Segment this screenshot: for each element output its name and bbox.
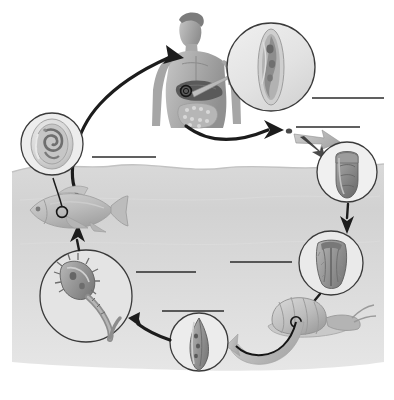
operculated-egg-icon xyxy=(336,152,358,199)
adult-fluke-inset xyxy=(227,23,315,111)
cercaria-inset xyxy=(40,250,132,342)
metacercaria-inset xyxy=(21,113,83,175)
diagram-canvas xyxy=(0,0,394,400)
miracidium-inset xyxy=(299,231,363,295)
encysted-metacercaria-icon xyxy=(31,119,73,169)
adult-fluke-icon xyxy=(258,29,284,105)
egg-inset xyxy=(317,142,377,202)
egg-speck xyxy=(286,128,292,133)
intestine-shape xyxy=(178,103,218,128)
life-cycle-diagram xyxy=(0,0,394,400)
sporocyst-inset xyxy=(170,313,228,371)
miracidium-icon xyxy=(316,240,346,288)
